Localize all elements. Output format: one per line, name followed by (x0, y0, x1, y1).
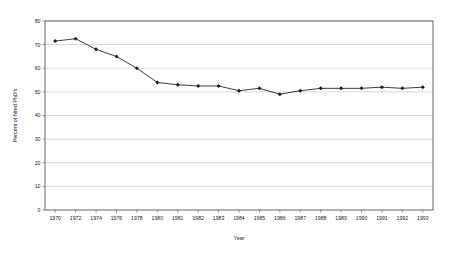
data-point-marker (421, 85, 425, 89)
x-tick-label: 1987 (294, 215, 306, 221)
y-tick-label: 40 (35, 112, 41, 118)
x-tick-label: 1978 (131, 215, 143, 221)
data-point-marker (53, 39, 57, 43)
data-point-marker (360, 86, 364, 90)
x-tick-label: 1980 (152, 215, 164, 221)
chart-container: 01020304050607080 1970197219741976197819… (0, 0, 451, 257)
x-tick-label: 1982 (192, 215, 204, 221)
data-point-marker (196, 84, 200, 88)
data-point-marker (278, 92, 282, 96)
data-point-marker (257, 86, 261, 90)
x-tick-label: 1990 (356, 215, 368, 221)
x-tick-label: 1972 (70, 215, 82, 221)
y-axis-tick-labels: 01020304050607080 (35, 18, 41, 213)
x-tick-label: 1988 (315, 215, 327, 221)
x-tick-label: 1976 (111, 215, 123, 221)
data-point-marker (339, 86, 343, 90)
x-tick-label: 1974 (90, 215, 102, 221)
data-point-markers (53, 37, 425, 97)
data-point-marker (94, 47, 98, 51)
y-tick-label: 20 (35, 160, 41, 166)
x-tick-label: 1991 (376, 215, 388, 221)
data-series-line (55, 39, 423, 95)
y-tick-label: 0 (38, 207, 41, 213)
x-tick-label: 1993 (417, 215, 429, 221)
y-tick-label: 10 (35, 183, 41, 189)
y-axis-title: Percent of hired PhD's (12, 88, 18, 142)
y-tick-label: 60 (35, 65, 41, 71)
data-point-marker (217, 84, 221, 88)
x-axis-tick-labels: 1970197219741976197819801981198219831984… (49, 215, 428, 221)
y-tick-label: 80 (35, 18, 41, 24)
line-chart: 01020304050607080 1970197219741976197819… (0, 0, 451, 257)
data-point-marker (319, 86, 323, 90)
x-tick-label: 1992 (397, 215, 409, 221)
data-point-marker (400, 86, 404, 90)
x-tick-label: 1989 (335, 215, 347, 221)
x-axis-title: Year (234, 235, 245, 241)
x-tick-label: 1983 (213, 215, 225, 221)
x-tick-label: 1986 (274, 215, 286, 221)
x-tick-label: 1984 (233, 215, 245, 221)
x-tick-label: 1985 (254, 215, 266, 221)
data-point-marker (176, 83, 180, 87)
data-point-marker (74, 37, 78, 41)
data-point-marker (380, 85, 384, 89)
y-tick-label: 50 (35, 89, 41, 95)
y-tick-label: 30 (35, 136, 41, 142)
x-tick-label: 1981 (172, 215, 184, 221)
x-tick-label: 1970 (49, 215, 61, 221)
y-tick-label: 70 (35, 42, 41, 48)
gridlines-group (45, 21, 433, 186)
data-point-marker (114, 54, 118, 58)
